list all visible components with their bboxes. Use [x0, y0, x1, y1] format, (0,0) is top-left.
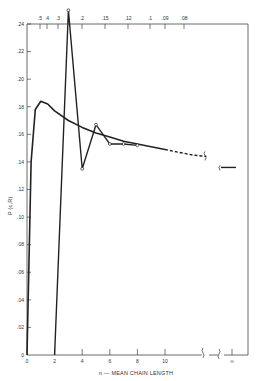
- data-point-marker: [67, 9, 70, 12]
- y-tick-label: .22: [17, 48, 24, 54]
- x-tick-label: 0: [26, 358, 29, 364]
- y-axis-label: P (c,R): [7, 197, 13, 215]
- top-tick-label: .5: [38, 15, 42, 21]
- y-tick-label: .24: [17, 21, 24, 27]
- plot-frame: [27, 24, 248, 355]
- top-tick-label: .08: [181, 15, 188, 21]
- top-tick-label: .4: [45, 15, 49, 21]
- y-tick-label: 0: [21, 352, 24, 358]
- y-tick-label: .20: [17, 76, 24, 82]
- axis-break-icon: [202, 348, 220, 359]
- y-tick-label: .06: [17, 269, 24, 275]
- x-tick-label: 2: [53, 358, 56, 364]
- x-tick-label: 8: [136, 358, 139, 364]
- data-point-marker: [122, 143, 125, 146]
- y-tick-label: .10: [17, 214, 24, 220]
- break-mark-icon: [219, 165, 220, 170]
- y-tick-label: .04: [17, 297, 24, 303]
- y-tick-label: .14: [17, 159, 24, 165]
- y-axis: 0.02.04.06.08.10.12.14.16.18.20.22.24: [17, 21, 31, 358]
- x-axis: 0246810∞: [26, 349, 235, 364]
- data-point-marker: [81, 167, 84, 170]
- top-tick-label: .15: [102, 15, 109, 21]
- top-tick-label: .3: [56, 15, 60, 21]
- x-tick-label: 4: [81, 358, 84, 364]
- data-point-marker: [108, 143, 111, 146]
- top-tick-label: .2: [80, 15, 84, 21]
- y-tick-label: .02: [17, 324, 24, 330]
- smooth-curve-dashed: [165, 150, 206, 157]
- series-group: [27, 9, 236, 355]
- x-axis-label: n — MEAN CHAIN LENGTH: [99, 370, 173, 376]
- top-axis: .5.4.3.2.15.12.1.09.08: [38, 15, 188, 29]
- smooth-curve: [27, 101, 165, 355]
- top-tick-label: .12: [125, 15, 132, 21]
- x-tick-label: ∞: [230, 358, 234, 364]
- top-tick-label: .1: [148, 15, 152, 21]
- x-tick-label: 10: [162, 358, 168, 364]
- y-tick-label: .12: [17, 186, 24, 192]
- top-tick-label: .09: [162, 15, 169, 21]
- y-tick-label: .18: [17, 104, 24, 110]
- data-point-marker: [95, 123, 98, 126]
- y-tick-label: .16: [17, 131, 24, 137]
- break-mark-icon: [204, 151, 206, 160]
- x-tick-label: 6: [108, 358, 111, 364]
- chart: 0.02.04.06.08.10.12.14.16.18.20.22.24 02…: [0, 0, 257, 381]
- y-tick-label: .08: [17, 241, 24, 247]
- oscillating-curve: [55, 10, 138, 355]
- data-point-marker: [136, 144, 139, 147]
